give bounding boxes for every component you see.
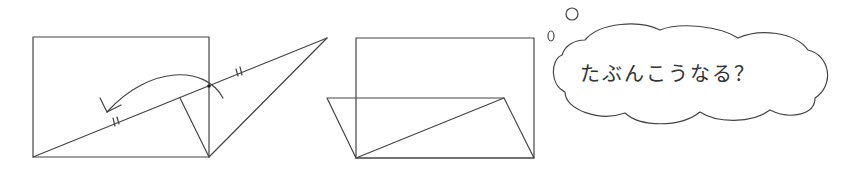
fold-arrow-curve (107, 75, 223, 112)
perpendicular-segment (180, 98, 209, 157)
thought-bubble-text: たぶんこうなる？ (580, 58, 820, 87)
thought-dot-small (548, 31, 554, 41)
figure-before (33, 37, 327, 157)
thought-dot-large (566, 8, 578, 20)
figure-after (327, 38, 534, 158)
intersection-point (207, 84, 211, 88)
fold-arrow-head-icon (100, 98, 121, 112)
triangle-flap-edge (209, 38, 327, 157)
folded-diagonal (356, 98, 504, 158)
